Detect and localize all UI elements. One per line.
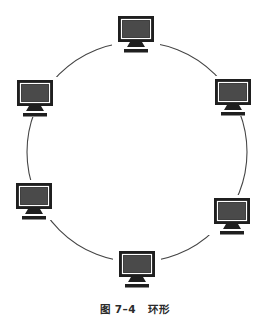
computer-nodes bbox=[10, 13, 257, 288]
ring-topology-diagram bbox=[0, 0, 269, 331]
node-upper-left bbox=[11, 77, 59, 117]
figure-caption: 图 7–4环形 bbox=[0, 301, 269, 316]
node-bottom bbox=[113, 248, 161, 288]
node-lower-right bbox=[208, 195, 256, 235]
node-upper-right bbox=[209, 76, 257, 116]
node-top bbox=[112, 13, 160, 53]
caption-number: 图 7–4 bbox=[100, 301, 136, 316]
caption-title: 环形 bbox=[148, 301, 169, 316]
node-lower-left bbox=[10, 180, 58, 220]
